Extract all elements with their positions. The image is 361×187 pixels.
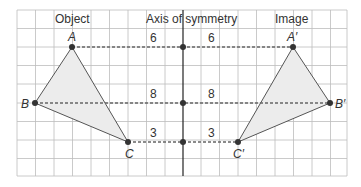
distance-A-right: 6 bbox=[208, 31, 215, 45]
symmetry-diagram: Object Axis of symmetry Image A B C A′ B… bbox=[0, 0, 361, 187]
header-object: Object bbox=[55, 12, 90, 26]
label-C: C bbox=[125, 147, 134, 161]
header-axis: Axis of symmetry bbox=[146, 12, 237, 26]
label-A: A bbox=[67, 30, 76, 44]
distance-B-right: 8 bbox=[208, 87, 215, 101]
label-B-prime: B′ bbox=[335, 97, 346, 111]
distance-C-left: 3 bbox=[150, 126, 157, 140]
distance-C-right: 3 bbox=[208, 126, 215, 140]
distance-A-left: 6 bbox=[150, 31, 157, 45]
object-triangle bbox=[35, 47, 128, 142]
header-image: Image bbox=[275, 12, 309, 26]
label-C-prime: C′ bbox=[233, 147, 245, 161]
distance-B-left: 8 bbox=[150, 87, 157, 101]
label-A-prime: A′ bbox=[286, 30, 298, 44]
label-B: B bbox=[21, 97, 29, 111]
image-triangle bbox=[238, 47, 330, 142]
